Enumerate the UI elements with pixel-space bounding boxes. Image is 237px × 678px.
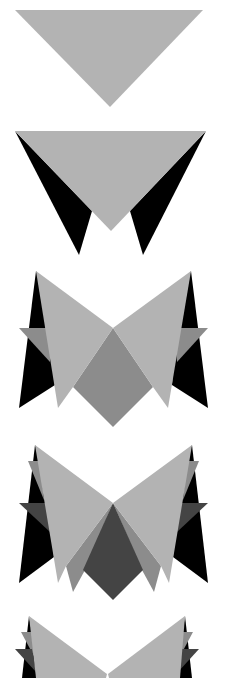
left-light-wing	[29, 616, 107, 678]
paper-triangle	[15, 10, 203, 107]
step-4-fold	[19, 445, 208, 600]
step-3-fold	[19, 271, 208, 427]
step-5-fold	[15, 616, 199, 678]
step-1-triangle	[15, 10, 203, 107]
origami-diagram	[0, 0, 237, 678]
step-2-fold	[15, 131, 206, 255]
right-light-wing	[108, 616, 185, 678]
